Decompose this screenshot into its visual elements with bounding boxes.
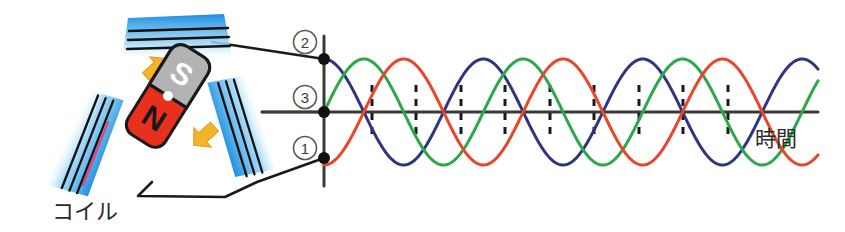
figure-canvas: N S コイル xyxy=(0,0,845,232)
coil-label: コイル xyxy=(52,199,118,224)
terminal-node-2[interactable] xyxy=(318,53,330,65)
time-axis-label: 時間 xyxy=(755,127,797,151)
terminal-label-3-text: 3 xyxy=(301,89,309,106)
coil-left xyxy=(43,84,133,203)
plot-axes xyxy=(262,36,818,186)
terminal-label-2: 2 xyxy=(294,31,317,54)
terminal-label-1: 1 xyxy=(294,137,317,160)
terminal-label-1-text: 1 xyxy=(301,140,309,157)
terminal-node-3[interactable] xyxy=(318,106,330,118)
terminal-label-3: 3 xyxy=(294,86,317,109)
terminal-node-1[interactable] xyxy=(318,152,330,164)
terminal-label-2-text: 2 xyxy=(301,34,309,51)
rotation-arrow-lower-right xyxy=(185,117,223,155)
terminal-labels: 2 3 1 xyxy=(294,31,317,160)
three-phase-generator-figure: N S コイル xyxy=(0,0,845,232)
wire-coil-left-to-terminal-1 xyxy=(138,158,324,197)
